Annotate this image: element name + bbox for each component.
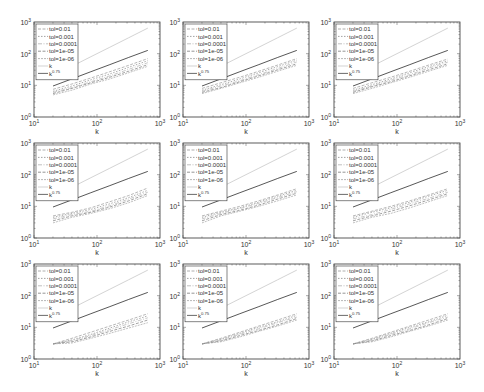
legend-label: tol=1e-06 <box>49 298 75 304</box>
legend-label: tol=0.0001 <box>198 41 227 47</box>
x-tick-label: 101 <box>29 360 40 369</box>
x-tick-label: 103 <box>155 118 166 127</box>
legend-label: tol=1e-06 <box>49 56 75 62</box>
y-tick-label: 101 <box>20 80 31 89</box>
legend-label: tol=0.001 <box>349 276 375 282</box>
legend-label: tol=1e-05 <box>349 48 375 54</box>
x-tick-label: 103 <box>155 239 166 248</box>
x-tick-label: 102 <box>392 360 403 369</box>
x-tick-label: 102 <box>392 239 403 248</box>
chart-canvas: 101102103100101102103ktol=0.01tol=0.001t… <box>0 0 484 392</box>
legend-label: tol=0.0001 <box>349 283 378 289</box>
y-tick-label: 103 <box>20 259 31 268</box>
legend-label: tol=0.01 <box>349 26 371 32</box>
legend-label: tol=0.001 <box>198 155 224 161</box>
subplot-row1-col2: 101102103100101102103ktol=0.01tol=0.001t… <box>169 17 314 135</box>
legend-label: tol=0.01 <box>198 147 220 153</box>
x-tick-label: 101 <box>178 360 189 369</box>
legend-label: tol=0.01 <box>349 147 371 153</box>
y-tick-label: 103 <box>169 259 180 268</box>
x-axis-label: k <box>395 370 399 377</box>
x-tick-label: 103 <box>304 118 315 127</box>
legend-label: tol=0.01 <box>349 268 371 274</box>
x-tick-label: 101 <box>329 239 340 248</box>
x-tick-label: 102 <box>241 239 252 248</box>
y-tick-label: 103 <box>320 17 331 26</box>
legend: tol=0.01tol=0.001tol=0.0001tol=1e-05tol=… <box>36 24 78 80</box>
y-tick-label: 103 <box>20 138 31 147</box>
x-tick-label: 103 <box>304 360 315 369</box>
y-tick-label: 103 <box>20 17 31 26</box>
y-tick-label: 103 <box>320 259 331 268</box>
legend-label: tol=1e-06 <box>349 56 375 62</box>
legend-label: tol=0.0001 <box>49 283 78 289</box>
legend-label: tol=0.001 <box>49 34 75 40</box>
legend-label: tol=0.001 <box>349 34 375 40</box>
x-tick-label: 101 <box>329 360 340 369</box>
legend-label: tol=1e-05 <box>49 48 75 54</box>
legend-label: tol=1e-05 <box>198 48 224 54</box>
x-tick-label: 102 <box>92 360 103 369</box>
subplot-row3-col3: 101102103100101102103ktol=0.01tol=0.001t… <box>320 259 465 377</box>
subplot-row3-col2: 101102103100101102103ktol=0.01tol=0.001t… <box>169 259 314 377</box>
legend-label: tol=0.0001 <box>349 162 378 168</box>
x-tick-label: 102 <box>241 360 252 369</box>
x-tick-label: 101 <box>329 118 340 127</box>
figure-grid: 101102103100101102103ktol=0.01tol=0.001t… <box>0 0 484 392</box>
legend: tol=0.01tol=0.001tol=0.0001tol=1e-05tol=… <box>36 266 78 322</box>
y-tick-label: 102 <box>20 49 31 58</box>
subplot-row1-col3: 101102103100101102103ktol=0.01tol=0.001t… <box>320 17 465 135</box>
y-tick-label: 101 <box>320 201 331 210</box>
x-axis-label: k <box>395 128 399 135</box>
x-axis-label: k <box>95 128 99 135</box>
legend-label: tol=1e-05 <box>198 169 224 175</box>
legend-label: tol=0.001 <box>49 276 75 282</box>
legend-label: tol=0.0001 <box>349 41 378 47</box>
x-tick-label: 102 <box>241 118 252 127</box>
y-tick-label: 102 <box>169 49 180 58</box>
x-axis-label: k <box>395 249 399 256</box>
legend-label: tol=1e-06 <box>198 298 224 304</box>
legend-label: tol=0.0001 <box>198 162 227 168</box>
legend: tol=0.01tol=0.001tol=0.0001tol=1e-05tol=… <box>336 266 378 322</box>
legend-label: tol=0.0001 <box>49 41 78 47</box>
legend-label: tol=1e-06 <box>349 298 375 304</box>
x-axis-label: k <box>244 370 248 377</box>
y-tick-label: 102 <box>20 291 31 300</box>
x-tick-label: 101 <box>178 118 189 127</box>
y-tick-label: 102 <box>20 170 31 179</box>
legend-label: tol=0.01 <box>198 26 220 32</box>
legend: tol=0.01tol=0.001tol=0.0001tol=1e-05tol=… <box>185 145 227 201</box>
legend-label: tol=0.01 <box>49 26 71 32</box>
subplot-row2-col2: 101102103100101102103ktol=0.01tol=0.001t… <box>169 138 314 256</box>
legend-label: tol=1e-05 <box>198 290 224 296</box>
legend-label: tol=0.001 <box>349 155 375 161</box>
legend-label: tol=0.001 <box>49 155 75 161</box>
y-tick-label: 102 <box>320 49 331 58</box>
legend-label: tol=0.0001 <box>198 283 227 289</box>
legend: tol=0.01tol=0.001tol=0.0001tol=1e-05tol=… <box>185 24 227 80</box>
legend: tol=0.01tol=0.001tol=0.0001tol=1e-05tol=… <box>336 24 378 80</box>
x-axis-label: k <box>244 128 248 135</box>
y-tick-label: 101 <box>20 201 31 210</box>
x-tick-label: 101 <box>29 118 40 127</box>
legend-label: tol=1e-06 <box>349 177 375 183</box>
x-tick-label: 102 <box>92 239 103 248</box>
legend: tol=0.01tol=0.001tol=0.0001tol=1e-05tol=… <box>185 266 227 322</box>
legend-label: tol=1e-06 <box>49 177 75 183</box>
legend-label: tol=1e-06 <box>198 177 224 183</box>
x-tick-label: 102 <box>392 118 403 127</box>
y-tick-label: 101 <box>169 322 180 331</box>
x-tick-label: 103 <box>304 239 315 248</box>
legend: tol=0.01tol=0.001tol=0.0001tol=1e-05tol=… <box>36 145 78 201</box>
legend-label: tol=0.01 <box>49 268 71 274</box>
y-tick-label: 101 <box>20 322 31 331</box>
legend-label: tol=0.0001 <box>49 162 78 168</box>
x-axis-label: k <box>95 249 99 256</box>
x-tick-label: 103 <box>455 239 466 248</box>
subplot-row3-col1: 101102103100101102103ktol=0.01tol=0.001t… <box>20 259 165 377</box>
x-tick-label: 103 <box>455 360 466 369</box>
legend-label: tol=1e-06 <box>198 56 224 62</box>
x-tick-label: 101 <box>29 239 40 248</box>
y-tick-label: 101 <box>320 80 331 89</box>
